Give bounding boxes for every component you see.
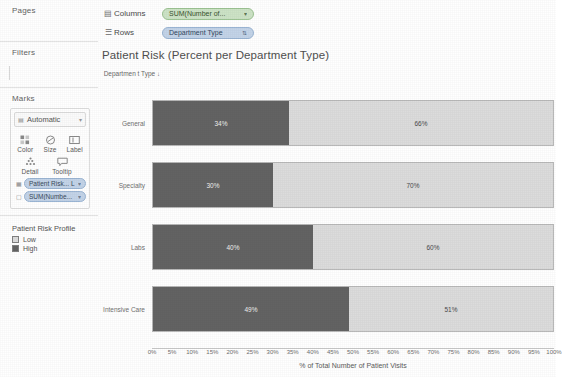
chevron-down-icon[interactable]: ▾: [78, 193, 81, 200]
bar-track: 34%66%: [152, 100, 554, 146]
x-axis-tick-label: 45%: [327, 349, 339, 355]
x-axis-tick-label: 80%: [468, 349, 480, 355]
rows-pill-label: Department Type: [169, 29, 238, 36]
marks-pill-color[interactable]: Patient Risk... L ▾: [24, 178, 86, 189]
row-header-field-label[interactable]: Departmen t Type ↓: [102, 70, 160, 79]
legend-item-low[interactable]: Low: [12, 236, 98, 243]
bar-segment-high[interactable]: 34%: [153, 101, 289, 145]
chevron-down-icon[interactable]: ▾: [78, 180, 81, 187]
pages-shelf[interactable]: Pages: [0, 0, 98, 42]
columns-pill-label: SUM(Number of...: [169, 10, 240, 17]
bar-segment-low[interactable]: 70%: [273, 163, 553, 207]
row-header-field-text: Departmen t Type: [104, 70, 156, 77]
bar-track: 49%51%: [152, 286, 554, 332]
bar-row-label[interactable]: Labs: [98, 216, 148, 278]
marks-card: ▤ Automatic ▾: [10, 108, 90, 209]
page-title: Patient Risk (Percent per Department Typ…: [98, 44, 556, 61]
legend-label-low: Low: [23, 236, 36, 243]
bar-segment-low[interactable]: 66%: [289, 101, 553, 145]
bar-segment-low[interactable]: 60%: [313, 225, 553, 269]
x-axis-tick-label: 20%: [226, 349, 238, 355]
x-axis-tick-label: 10%: [186, 349, 198, 355]
marks-shelf: Marks ▤ Automatic ▾: [0, 88, 98, 216]
x-axis: 0%5%10%15%20%25%30%35%40%45%50%55%60%65%…: [152, 348, 554, 360]
chevron-down-icon[interactable]: ▾: [79, 116, 82, 123]
x-axis-tick-label: 50%: [347, 349, 359, 355]
worksheet-main: ▤ Columns SUM(Number of... ▾ ☰ Rows Depa…: [98, 0, 556, 377]
sort-icon[interactable]: ⇅: [242, 29, 247, 36]
legend-label-high: High: [23, 245, 37, 252]
rows-pill-department-type[interactable]: Department Type ⇅: [162, 27, 254, 39]
marks-tooltip-button[interactable]: Tooltip: [49, 154, 75, 175]
marks-pill-label-label: SUM(Numbe...: [29, 193, 78, 200]
marks-pill-color-label: Patient Risk... L: [29, 180, 78, 187]
color-legend: Patient Risk Profile Low High: [0, 216, 98, 252]
marks-button-row-1: Color Size: [11, 131, 89, 153]
chevron-down-icon[interactable]: ▾: [244, 10, 247, 17]
bar-segment-high[interactable]: 49%: [153, 287, 349, 331]
x-axis-tick-label: 55%: [367, 349, 379, 355]
x-axis-tick-label: 60%: [387, 349, 399, 355]
marks-label-button[interactable]: Label: [62, 132, 87, 153]
bar-row: Intensive Care49%51%: [98, 278, 556, 340]
mark-type-value: Automatic: [27, 115, 79, 124]
bar-rows: General34%66%Specialty30%70%Labs40%60%In…: [98, 92, 556, 340]
marks-color-button[interactable]: Color: [13, 132, 38, 153]
marks-color-label: Color: [17, 146, 33, 153]
rows-shelf-label: Rows: [114, 28, 162, 37]
legend-item-high[interactable]: High: [12, 245, 98, 252]
pages-shelf-title: Pages: [0, 0, 98, 15]
label-icon: ▢: [14, 193, 24, 200]
x-axis-tick-label: 25%: [246, 349, 258, 355]
columns-shelf[interactable]: ▤ Columns SUM(Number of... ▾: [102, 6, 556, 21]
bar-row: Specialty30%70%: [98, 154, 556, 216]
legend-swatch-high: [12, 245, 19, 252]
marks-detail-button[interactable]: Detail: [17, 154, 43, 175]
marks-pill-label[interactable]: SUM(Numbe... ▾: [24, 191, 86, 202]
color-icon: ▦: [14, 180, 24, 187]
legend-swatch-low: [12, 236, 19, 243]
x-axis-tick-label: 5%: [168, 349, 177, 355]
columns-pill-sum-number-of[interactable]: SUM(Number of... ▾: [162, 8, 254, 20]
marks-type-icon: ▤: [18, 116, 24, 123]
marks-pill-list: ▦ Patient Risk... L ▾ ▢ SUM(Numbe... ▾: [11, 175, 89, 202]
label-icon: [69, 134, 81, 145]
marks-button-row-2: Detail Tooltip: [11, 153, 89, 175]
bar-row-label[interactable]: Specialty: [98, 154, 148, 216]
x-axis-tick-label: 15%: [206, 349, 218, 355]
bar-row: Labs40%60%: [98, 216, 556, 278]
marks-size-label: Size: [43, 146, 56, 153]
x-axis-tick-label: 85%: [488, 349, 500, 355]
rows-shelf[interactable]: ☰ Rows Department Type ⇅: [102, 25, 556, 40]
marks-pill-row: ▢ SUM(Numbe... ▾: [14, 191, 86, 202]
size-icon: [44, 134, 56, 145]
x-axis-tick-label: 35%: [287, 349, 299, 355]
x-axis-tick-label: 95%: [528, 349, 540, 355]
bar-segment-low[interactable]: 51%: [349, 287, 553, 331]
color-icon: [19, 134, 31, 145]
detail-icon: [24, 156, 36, 167]
filters-drag-handle[interactable]: [9, 66, 12, 80]
x-axis-tick-label: 90%: [508, 349, 520, 355]
mark-type-dropdown[interactable]: ▤ Automatic ▾: [14, 112, 86, 127]
x-axis-tick-label: 30%: [267, 349, 279, 355]
x-axis-tick-label: 75%: [447, 349, 459, 355]
x-axis-tick-label: 65%: [407, 349, 419, 355]
bar-row-label[interactable]: Intensive Care: [98, 278, 148, 340]
sort-descending-icon[interactable]: ↓: [157, 71, 160, 77]
bar-segment-high[interactable]: 30%: [153, 163, 273, 207]
x-axis-title: % of Total Number of Patient Visits: [152, 362, 554, 369]
rows-icon: ☰: [102, 28, 114, 37]
marks-shelf-title: Marks: [0, 88, 98, 103]
x-axis-tick-label: 40%: [307, 349, 319, 355]
legend-title: Patient Risk Profile: [12, 224, 98, 233]
marks-size-button[interactable]: Size: [38, 132, 63, 153]
bar-segment-high[interactable]: 40%: [153, 225, 313, 269]
filters-shelf[interactable]: Filters: [0, 42, 98, 88]
bar-track: 40%60%: [152, 224, 554, 270]
tooltip-icon: [56, 156, 68, 167]
bar-row-label[interactable]: General: [98, 92, 148, 154]
columns-shelf-label: Columns: [114, 9, 162, 18]
x-axis-tick-label: 100%: [546, 349, 561, 355]
